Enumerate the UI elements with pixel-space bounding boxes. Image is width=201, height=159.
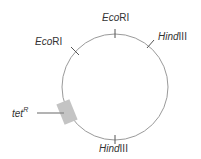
hindiii-bottom-label: HindIII	[99, 143, 128, 154]
ecori-top-label: EcoRI	[102, 12, 129, 23]
plasmid-circle	[62, 34, 168, 140]
ecori-left-tick	[71, 47, 79, 55]
tetr-gene-marker	[37, 99, 78, 125]
hindiii-right-label: HindIII	[158, 31, 187, 42]
ecori-left-label: EcoRI	[35, 36, 62, 47]
hindiii-right-tick	[147, 40, 154, 48]
plasmid-diagram: EcoRI EcoRI HindIII HindIII tetR	[0, 0, 201, 159]
tetr-label: tetR	[12, 106, 28, 119]
